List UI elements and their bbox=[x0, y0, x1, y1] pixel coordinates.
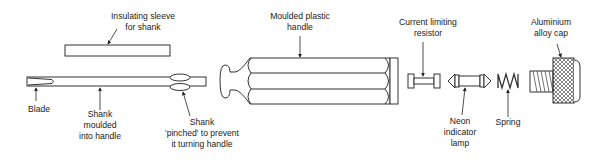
neon-indicator-lamp bbox=[448, 74, 491, 88]
label-line: into handle bbox=[79, 131, 121, 142]
label-line: Insulating sleeve bbox=[111, 11, 175, 22]
label-neon-lamp: Neon indicator lamp bbox=[444, 116, 476, 149]
label-line: Neon bbox=[444, 116, 476, 127]
label-line: alloy cap bbox=[531, 28, 571, 39]
label-shank-pinched: Shank 'pinched' to prevent it turning ha… bbox=[165, 117, 239, 150]
label-line: lamp bbox=[444, 138, 476, 149]
label-line: it turning handle bbox=[165, 139, 239, 150]
label-line: indicator bbox=[444, 127, 476, 138]
label-insulating-sleeve: Insulating sleeve for shank bbox=[111, 11, 175, 33]
label-line: 'pinched' to prevent bbox=[165, 128, 239, 139]
label-line: moulded bbox=[79, 120, 121, 131]
leader-shank-pinched bbox=[183, 92, 190, 116]
label-line: Moulded plastic bbox=[270, 11, 330, 22]
moulded-plastic-handle bbox=[220, 58, 398, 104]
label-line: Aluminium bbox=[531, 17, 571, 28]
label-resistor: Current limiting resistor bbox=[399, 17, 457, 39]
label-line: Spring bbox=[496, 117, 521, 128]
label-line: Shank bbox=[79, 109, 121, 120]
leader-cap bbox=[557, 44, 561, 57]
label-line: handle bbox=[270, 22, 330, 33]
label-blade: Blade bbox=[28, 104, 50, 115]
label-shank-moulded: Shank moulded into handle bbox=[79, 109, 121, 142]
label-line: Shank bbox=[165, 117, 239, 128]
spring bbox=[498, 74, 518, 88]
label-line: Current limiting bbox=[399, 17, 457, 28]
label-spring: Spring bbox=[496, 117, 521, 128]
leader-neon-lamp bbox=[462, 88, 465, 115]
diagram-canvas: Insulating sleeve for shank Moulded plas… bbox=[0, 0, 601, 163]
shank bbox=[27, 74, 206, 91]
label-moulded-handle: Moulded plastic handle bbox=[270, 11, 330, 33]
label-line: for shank bbox=[111, 22, 175, 33]
label-line: resistor bbox=[399, 28, 457, 39]
aluminium-alloy-cap bbox=[530, 58, 580, 103]
insulating-sleeve bbox=[65, 45, 170, 56]
label-line: Blade bbox=[28, 104, 50, 115]
current-limiting-resistor bbox=[408, 74, 440, 88]
label-cap: Aluminium alloy cap bbox=[531, 17, 571, 39]
